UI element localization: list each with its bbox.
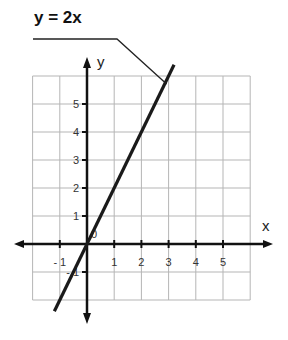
x-axis-label: x (262, 217, 270, 234)
x-tick-label: 4 (193, 256, 199, 268)
x-tick-label: 5 (220, 256, 226, 268)
x-tick-label: 3 (166, 256, 172, 268)
x-tick-label: 2 (138, 256, 144, 268)
x-tick-label: - 1 (53, 256, 66, 268)
y-tick-label: 3 (73, 154, 79, 166)
y-axis-down-arrow-icon (83, 313, 91, 324)
y-tick-label: 5 (73, 98, 79, 110)
x-tick-label: 1 (111, 256, 117, 268)
y-axis-label: y (97, 53, 105, 70)
y-tick-label: 4 (73, 126, 79, 138)
y-axis-up-arrow-icon (83, 57, 91, 68)
x-axis-right-arrow-icon (263, 240, 273, 248)
coordinate-plane: xy - 112345- 1123450 (0, 0, 288, 340)
x-axis-left-arrow-icon (14, 240, 24, 248)
y-tick-label: 2 (73, 182, 79, 194)
y-tick-label: 1 (73, 210, 79, 222)
